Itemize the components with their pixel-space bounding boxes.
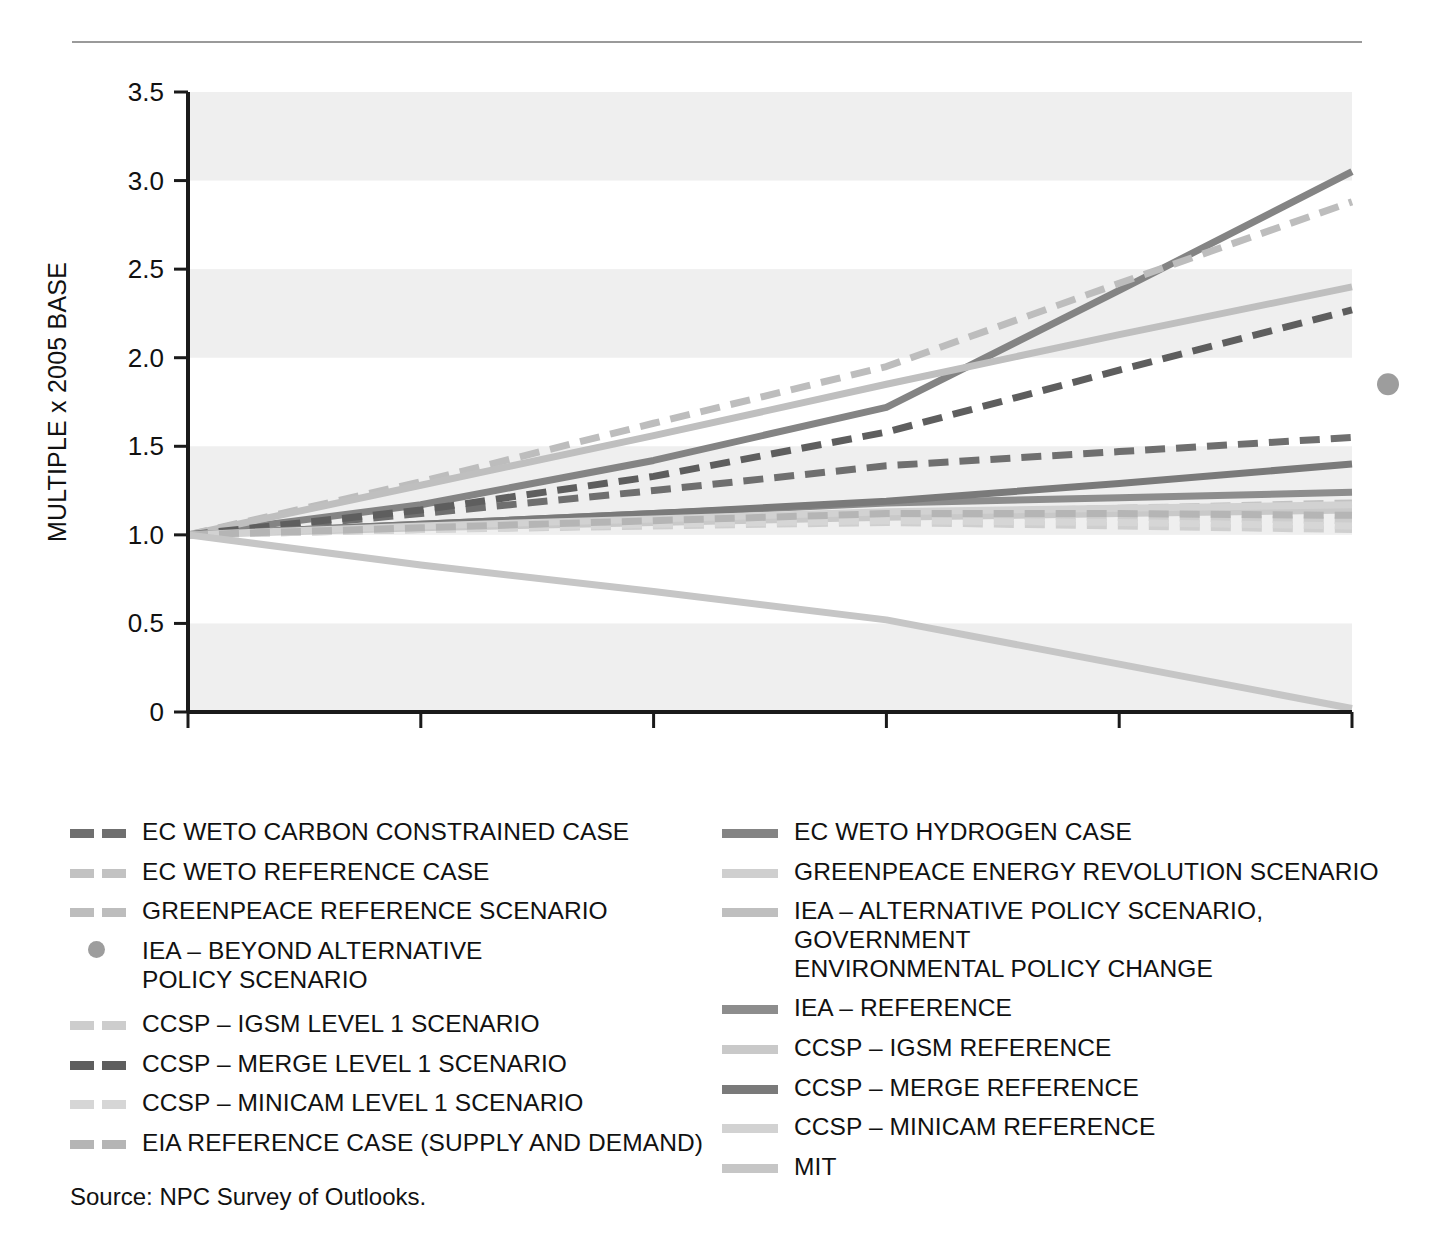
legend-swatch-dashed <box>70 908 126 917</box>
legend-swatch-dashed <box>70 1061 126 1070</box>
legend-swatch-solid <box>722 1164 778 1173</box>
legend-item-label: CCSP – MINICAM LEVEL 1 SCENARIO <box>142 1089 584 1118</box>
svg-text:MULTIPLE x 2005 BASE: MULTIPLE x 2005 BASE <box>43 262 71 542</box>
legend-item-label: EIA REFERENCE CASE (SUPPLY AND DEMAND) <box>142 1129 703 1158</box>
legend-item[interactable]: GREENPEACE ENERGY REVOLUTION SCENARIO <box>722 858 1422 887</box>
legend-item-label: CCSP – MERGE LEVEL 1 SCENARIO <box>142 1050 567 1079</box>
legend-item-label: CCSP – IGSM REFERENCE <box>794 1034 1112 1063</box>
legend-item[interactable]: CCSP – IGSM REFERENCE <box>722 1034 1422 1063</box>
legend-item[interactable]: EC WETO HYDROGEN CASE <box>722 818 1422 847</box>
band-background <box>188 92 1352 712</box>
legend-item[interactable]: CCSP – MERGE REFERENCE <box>722 1074 1422 1103</box>
svg-text:2.5: 2.5 <box>128 254 164 284</box>
legend-item[interactable]: GREENPEACE REFERENCE SCENARIO <box>70 897 710 926</box>
legend-item-label: IEA – REFERENCE <box>794 994 1012 1023</box>
svg-text:1.0: 1.0 <box>128 520 164 550</box>
legend-item[interactable]: EC WETO REFERENCE CASE <box>70 858 710 887</box>
legend-item[interactable]: MIT <box>722 1153 1422 1182</box>
legend-item[interactable]: CCSP – MINICAM REFERENCE <box>722 1113 1422 1142</box>
svg-text:3.5: 3.5 <box>128 77 164 107</box>
legend-item-label: CCSP – MINICAM REFERENCE <box>794 1113 1155 1142</box>
svg-text:1.5: 1.5 <box>128 431 164 461</box>
svg-text:3.0: 3.0 <box>128 166 164 196</box>
legend-item-label: EC WETO REFERENCE CASE <box>142 858 490 887</box>
legend-swatch-solid <box>722 1045 778 1054</box>
chart-legend: EC WETO CARBON CONSTRAINED CASEEC WETO R… <box>0 818 1436 1163</box>
legend-column-right: EC WETO HYDROGEN CASEGREENPEACE ENERGY R… <box>722 818 1422 1193</box>
header-divider <box>72 41 1362 43</box>
legend-item[interactable]: IEA – BEYOND ALTERNATIVE POLICY SCENARIO <box>70 937 710 999</box>
legend-item-label: IEA – ALTERNATIVE POLICY SCENARIO, GOVER… <box>794 897 1422 983</box>
legend-item-label: MIT <box>794 1153 836 1182</box>
legend-swatch-dashed <box>70 1021 126 1030</box>
legend-swatch-dashed <box>70 869 126 878</box>
legend-swatch-solid <box>722 1005 778 1014</box>
legend-item[interactable]: CCSP – MERGE LEVEL 1 SCENARIO <box>70 1050 710 1079</box>
legend-item-label: EC WETO HYDROGEN CASE <box>794 818 1132 847</box>
legend-swatch-solid <box>722 829 778 838</box>
svg-text:0: 0 <box>150 697 164 727</box>
legend-item-label: EC WETO CARBON CONSTRAINED CASE <box>142 818 629 847</box>
legend-swatch-solid <box>722 1085 778 1094</box>
legend-swatch-solid <box>722 908 778 917</box>
legend-item[interactable]: IEA – REFERENCE <box>722 994 1422 1023</box>
chart-area: 00.51.01.52.02.53.03.5200520102015202020… <box>0 70 1436 730</box>
legend-item-label: CCSP – IGSM LEVEL 1 SCENARIO <box>142 1010 540 1039</box>
legend-item[interactable]: CCSP – MINICAM LEVEL 1 SCENARIO <box>70 1089 710 1118</box>
legend-item[interactable]: CCSP – IGSM LEVEL 1 SCENARIO <box>70 1010 710 1039</box>
legend-swatch-solid <box>722 869 778 878</box>
legend-swatch-dashed <box>70 829 126 838</box>
legend-item[interactable]: IEA – ALTERNATIVE POLICY SCENARIO, GOVER… <box>722 897 1422 983</box>
legend-item[interactable]: EIA REFERENCE CASE (SUPPLY AND DEMAND) <box>70 1129 710 1158</box>
legend-swatch-solid <box>722 1124 778 1133</box>
legend-item-label: IEA – BEYOND ALTERNATIVE POLICY SCENARIO <box>142 937 483 994</box>
legend-swatch-dashed <box>70 1100 126 1109</box>
legend-item-label: GREENPEACE REFERENCE SCENARIO <box>142 897 608 926</box>
legend-column-left: EC WETO CARBON CONSTRAINED CASEEC WETO R… <box>70 818 710 1169</box>
source-note: Source: NPC Survey of Outlooks. <box>70 1183 426 1211</box>
legend-item-label: GREENPEACE ENERGY REVOLUTION SCENARIO <box>794 858 1379 887</box>
line-chart: 00.51.01.52.02.53.03.5200520102015202020… <box>0 70 1436 730</box>
legend-swatch-dashed <box>70 1140 126 1149</box>
legend-item-label: CCSP – MERGE REFERENCE <box>794 1074 1139 1103</box>
svg-text:0.5: 0.5 <box>128 608 164 638</box>
legend-item[interactable]: EC WETO CARBON CONSTRAINED CASE <box>70 818 710 847</box>
svg-text:2.0: 2.0 <box>128 343 164 373</box>
